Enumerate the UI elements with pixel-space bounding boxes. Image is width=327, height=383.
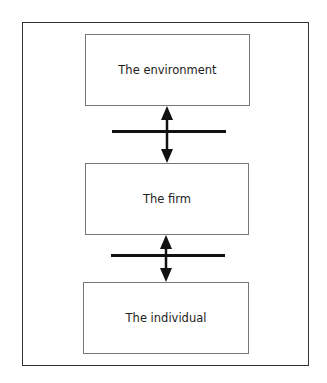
double-arrow-icon — [159, 106, 175, 163]
box-environment: The environment — [85, 34, 250, 106]
box-firm: The firm — [85, 163, 249, 235]
box-environment-label: The environment — [118, 63, 216, 77]
box-individual: The individual — [83, 282, 249, 354]
double-arrow-icon — [158, 235, 174, 282]
box-individual-label: The individual — [126, 311, 207, 325]
box-firm-label: The firm — [143, 192, 191, 206]
